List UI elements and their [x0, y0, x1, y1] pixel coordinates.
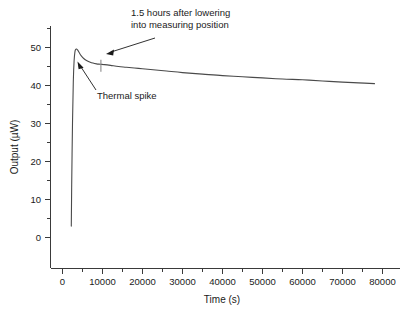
- x-tick-label-10000: 10000: [89, 276, 115, 287]
- chart-figure: 0 10 20 30 40 50 Output (µW): [0, 0, 411, 312]
- x-tick-label-30000: 30000: [169, 276, 195, 287]
- x-tick-label-0: 0: [60, 276, 65, 287]
- y-tick-label-0: 0: [36, 232, 41, 243]
- thermal-spike-label: Thermal spike: [97, 90, 157, 101]
- x-tick-label-80000: 80000: [369, 276, 395, 287]
- y-axis-title: Output (µW): [9, 120, 20, 175]
- x-tick-label-20000: 20000: [129, 276, 155, 287]
- y-tick-label-50: 50: [30, 42, 41, 53]
- annotation-line-2: into measuring position: [131, 19, 229, 30]
- chart-background: [0, 0, 411, 312]
- x-tick-label-60000: 60000: [289, 276, 315, 287]
- y-tick-label-10: 10: [30, 194, 41, 205]
- y-tick-label-30: 30: [30, 118, 41, 129]
- output-vs-time-line-chart: 0 10 20 30 40 50 Output (µW): [0, 0, 411, 312]
- x-tick-label-70000: 70000: [329, 276, 355, 287]
- y-tick-label-40: 40: [30, 80, 41, 91]
- x-tick-label-40000: 40000: [209, 276, 235, 287]
- x-axis-title: Time (s): [204, 294, 240, 305]
- x-tick-label-50000: 50000: [249, 276, 275, 287]
- y-tick-label-20: 20: [30, 156, 41, 167]
- annotation-line-1: 1.5 hours after lowering: [131, 7, 230, 18]
